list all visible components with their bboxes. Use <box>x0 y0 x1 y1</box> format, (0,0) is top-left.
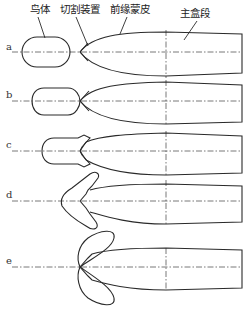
bird-fragment-lower <box>78 267 114 305</box>
wing-section <box>80 32 242 76</box>
stage-b <box>12 80 242 126</box>
leader-lines <box>38 17 197 46</box>
stage-c <box>12 131 242 176</box>
stage-e <box>12 231 242 305</box>
stage-d <box>12 172 242 229</box>
bird-body <box>32 88 80 115</box>
bird-fragment-upper <box>78 231 114 267</box>
wing-section <box>80 248 242 290</box>
bird-strike-sequence-diagram: 鸟体 切割装置 前缘蒙皮 主盒段 a b c d e <box>0 0 246 315</box>
diagram-drawing <box>0 0 246 315</box>
wing-section <box>80 82 242 124</box>
stage-a <box>12 30 242 78</box>
wing-section <box>86 133 242 175</box>
